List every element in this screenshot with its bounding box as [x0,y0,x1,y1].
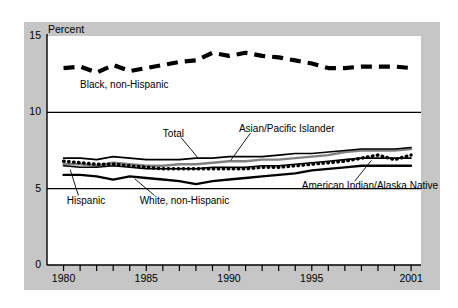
x-tick-label-2001: 2001 [389,273,433,284]
axis-canvas [24,22,440,290]
annotation-label: American Indian/Alaska Native [302,180,438,191]
annotation-label: Asian/Pacific Islander [239,123,335,134]
x-tick-label-1980: 1980 [42,273,86,284]
y-tick-label-10: 10 [17,106,41,116]
annotation-label: Total [163,128,184,139]
chart-figure: Percent 151050 19801985199019952001 Blac… [0,0,458,308]
y-tick-label-15: 15 [17,30,41,40]
x-tick-label-1990: 1990 [207,273,251,284]
y-tick-label-5: 5 [17,183,41,193]
x-axis-ticks [64,265,412,271]
y-tick-label-0: 0 [17,259,41,269]
x-tick-label-1985: 1985 [124,273,168,284]
annotation-label: Hispanic [67,195,105,206]
annotation-label: Black, non-Hispanic [80,79,168,90]
annotation-label: White, non-Hispanic [140,195,229,206]
x-tick-label-1995: 1995 [290,273,334,284]
axis-lines [47,34,421,265]
